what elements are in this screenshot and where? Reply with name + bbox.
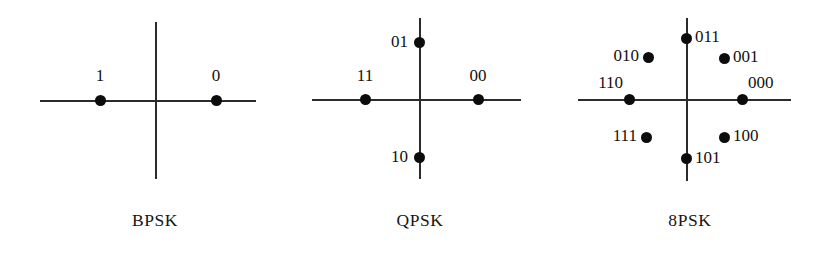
constellation-label-8psk-011: 011 (695, 28, 720, 45)
constellation-point-8psk-100 (719, 132, 730, 143)
constellation-point-8psk-111 (641, 132, 652, 143)
constellation-point-8psk-110 (624, 94, 635, 105)
constellation-point-8psk-000 (737, 94, 748, 105)
constellation-panel-8psk: 0110100011100001111001018PSK (0, 0, 828, 255)
constellation-label-8psk-111: 111 (577, 127, 637, 144)
constellation-point-8psk-101 (681, 153, 692, 164)
constellation-point-8psk-011 (681, 33, 692, 44)
constellation-label-8psk-100: 100 (733, 127, 759, 144)
psk-constellation-figure: 10BPSK01110010QPSK0110100011100001111001… (0, 0, 828, 255)
constellation-label-8psk-001: 001 (733, 48, 759, 65)
constellation-label-8psk-110: 110 (563, 74, 623, 91)
constellation-point-8psk-010 (643, 52, 654, 63)
constellation-label-8psk-101: 101 (695, 149, 721, 166)
constellation-point-8psk-001 (719, 53, 730, 64)
panel-caption-8psk: 8PSK (620, 210, 760, 230)
in-phase-axis-8psk (578, 99, 791, 101)
constellation-label-8psk-000: 000 (748, 74, 774, 91)
constellation-label-8psk-010: 010 (579, 47, 639, 64)
